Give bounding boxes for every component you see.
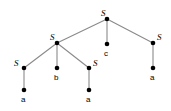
tree-node-label-leaf-a-2: a bbox=[86, 96, 90, 104]
tree-edge bbox=[24, 43, 57, 68]
tree-node-dot bbox=[105, 42, 110, 47]
tree-node-dot bbox=[87, 88, 92, 93]
tree-node-label-leaf-a-1: a bbox=[21, 96, 25, 104]
tree-node-label-left-left-s: S bbox=[14, 59, 19, 68]
parse-tree-figure: SScSSbSaaa bbox=[0, 0, 171, 111]
tree-node-dot bbox=[22, 66, 27, 71]
edge-layer bbox=[24, 19, 153, 90]
tree-node-dot bbox=[22, 88, 27, 93]
tree-node-dot bbox=[87, 66, 92, 71]
tree-node-dot bbox=[151, 41, 156, 46]
tree-edge bbox=[57, 43, 89, 68]
tree-node-dot bbox=[55, 66, 60, 71]
tree-node-dot bbox=[55, 41, 60, 46]
tree-edge bbox=[57, 19, 107, 43]
tree-node-label-leaf-a-3: a bbox=[150, 74, 154, 82]
tree-node-label-left-right-s: S bbox=[93, 59, 98, 68]
tree-edge bbox=[107, 19, 153, 43]
tree-node-label-mid-c: c bbox=[104, 50, 108, 58]
tree-node-label-right-s: S bbox=[157, 33, 162, 42]
tree-node-label-root-s: S bbox=[101, 9, 106, 18]
tree-node-label-left-mid-b: b bbox=[54, 74, 58, 82]
tree-node-dot bbox=[151, 66, 156, 71]
tree-node-label-left-s: S bbox=[50, 33, 55, 42]
